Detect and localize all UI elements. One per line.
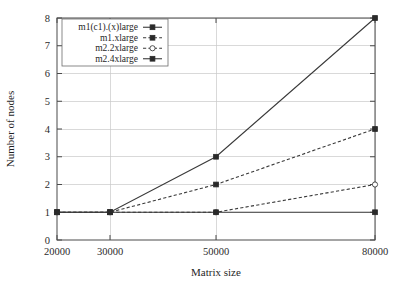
legend-marker-1 (150, 25, 155, 30)
series-data-point (214, 210, 219, 215)
y-tick-label: 4 (45, 124, 51, 135)
legend-label-2: m1.xlarge (100, 33, 138, 43)
y-tick-label: 3 (45, 151, 50, 162)
y-tick-label: 5 (45, 96, 50, 107)
y-axis-title: Number of nodes (4, 91, 16, 167)
x-tick-label: 20000 (44, 246, 70, 257)
legend-marker-4 (150, 56, 155, 61)
legend-marker-2 (150, 35, 155, 40)
y-axis-tick-labels: 012345678 (45, 13, 51, 246)
series-data-point (372, 182, 377, 187)
figure-background (0, 0, 400, 287)
series-data-point (373, 16, 378, 21)
x-tick-label: 80000 (362, 246, 388, 257)
chart-legend: m1(c1).(x)largem1.xlargem2.2xlargem2.4xl… (62, 19, 168, 66)
y-tick-label: 8 (45, 13, 50, 24)
y-tick-label: 0 (45, 235, 50, 246)
x-tick-label: 50000 (203, 246, 229, 257)
series-data-point (108, 210, 113, 215)
series-data-point (55, 210, 60, 215)
y-tick-label: 7 (45, 40, 50, 51)
y-tick-label: 1 (45, 207, 50, 218)
series-data-point (373, 210, 378, 215)
y-tick-label: 6 (45, 68, 50, 79)
x-axis-title: Matrix size (191, 266, 241, 278)
chart-figure: 012345678 20000300005000080000 Matrix si… (0, 0, 400, 287)
legend-label-4: m2.4xlarge (95, 54, 138, 64)
legend-label-3: m2.2xlarge (95, 43, 138, 53)
series-data-point (373, 127, 378, 132)
x-tick-label: 30000 (97, 246, 123, 257)
line-chart-canvas: 012345678 20000300005000080000 Matrix si… (0, 0, 400, 287)
series-data-point (214, 154, 219, 159)
series-data-point (214, 182, 219, 187)
legend-label-1: m1(c1).(x)large (78, 22, 138, 33)
y-tick-label: 2 (45, 179, 50, 190)
legend-marker-3 (150, 46, 155, 51)
